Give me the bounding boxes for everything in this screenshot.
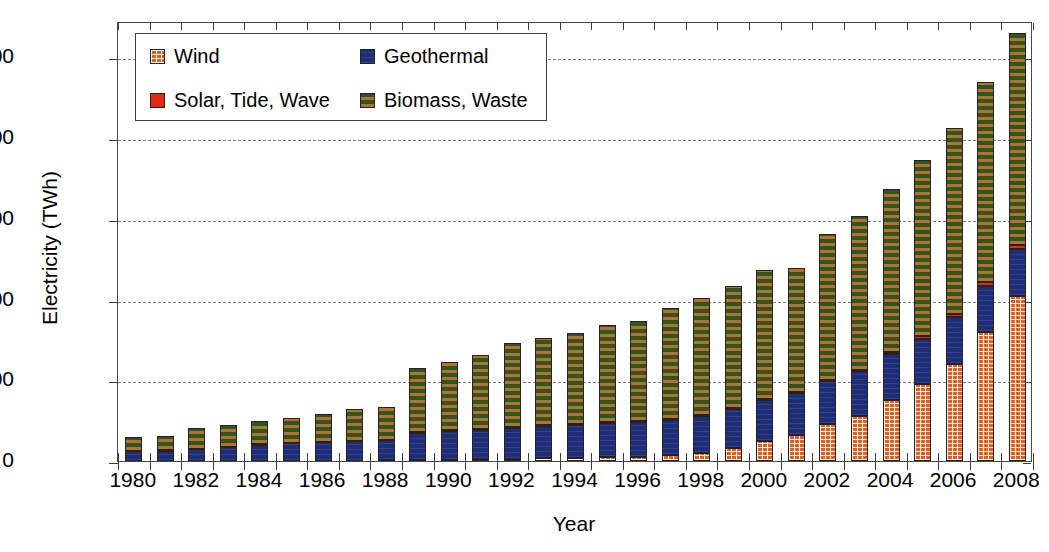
x-tick-mark [497, 23, 498, 30]
legend-label: Biomass, Waste [384, 89, 528, 112]
x-tick-mark [970, 453, 971, 461]
x-tick-mark [907, 453, 908, 461]
x-tick-mark [370, 453, 371, 461]
bar-segment-geothermal [819, 381, 836, 424]
y-axis-title: Electricity (TWh) [38, 48, 62, 448]
bar-1992[interactable] [504, 342, 521, 461]
bar-1982[interactable] [188, 427, 205, 461]
legend-item-solar-tide-wave[interactable]: Solar, Tide, Wave [150, 89, 360, 112]
bar-segment-wind [977, 332, 994, 461]
x-tick-mark [591, 23, 592, 30]
legend-swatch-icon [360, 49, 375, 64]
bar-1986[interactable] [315, 414, 332, 461]
bar-segment-solar-tide-wave [1009, 245, 1026, 250]
bar-segment-geothermal [883, 354, 900, 399]
bar-2006[interactable] [946, 128, 963, 461]
bar-1999[interactable] [725, 287, 742, 461]
bar-1997[interactable] [662, 308, 679, 461]
bar-2002[interactable] [819, 234, 836, 461]
bar-1993[interactable] [535, 338, 552, 461]
bar-segment-biomass-waste [346, 409, 363, 440]
bar-1985[interactable] [283, 418, 300, 461]
bar-segment-wind [725, 448, 742, 461]
bar-2004[interactable] [883, 189, 900, 461]
y-tick-mark [109, 463, 118, 464]
bar-1996[interactable] [630, 321, 647, 461]
y-tick-label: 400 [0, 126, 14, 147]
x-tick-mark [781, 453, 782, 461]
bar-segment-biomass-waste [567, 333, 584, 424]
x-tick-mark [213, 23, 214, 30]
bar-segment-solar-tide-wave [914, 336, 931, 339]
x-tick-mark [938, 23, 939, 30]
bar-1984[interactable] [251, 421, 268, 461]
bar-1980[interactable] [125, 437, 142, 461]
bar-segment-geothermal [535, 426, 552, 458]
bar-1995[interactable] [599, 325, 616, 461]
bar-2000[interactable] [756, 270, 773, 461]
bar-segment-geothermal [378, 440, 395, 460]
x-tick-mark [1001, 23, 1002, 30]
x-tick-mark [717, 453, 718, 461]
bar-segment-geothermal [914, 339, 931, 384]
bar-segment-biomass-waste [788, 268, 805, 392]
bar-1989[interactable] [409, 367, 426, 461]
x-tick-mark [181, 23, 182, 30]
x-tick-mark [1033, 23, 1034, 30]
x-tick-mark [402, 453, 403, 461]
bar-segment-geothermal [409, 433, 426, 460]
x-tick-mark [907, 23, 908, 30]
x-tick-mark [970, 23, 971, 30]
y-tick-label: 100 [0, 368, 14, 389]
bar-segment-biomass-waste [441, 362, 458, 431]
bar-segment-geothermal [662, 420, 679, 456]
bar-1988[interactable] [378, 407, 395, 461]
bar-2005[interactable] [914, 160, 931, 461]
legend-item-geothermal[interactable]: Geothermal [360, 45, 560, 68]
x-tick-mark [465, 23, 466, 30]
x-tick-mark [686, 453, 687, 461]
bar-2008[interactable] [1009, 33, 1026, 461]
y-tick-mark [109, 302, 118, 303]
bar-1998[interactable] [693, 298, 710, 461]
bar-1981[interactable] [157, 437, 174, 461]
bar-segment-geothermal [756, 400, 773, 440]
bar-1990[interactable] [441, 362, 458, 461]
x-tick-mark [654, 23, 655, 30]
x-tick-mark [370, 23, 371, 30]
bar-1983[interactable] [220, 425, 237, 461]
bar-2001[interactable] [788, 267, 805, 461]
bar-1991[interactable] [472, 354, 489, 461]
bar-segment-biomass-waste [693, 298, 710, 415]
bar-segment-geothermal [188, 449, 205, 461]
x-axis-title: Year [117, 512, 1031, 536]
bar-segment-geothermal [251, 445, 268, 461]
bar-segment-biomass-waste [599, 325, 616, 422]
legend-item-biomass-waste[interactable]: Biomass, Waste [360, 89, 560, 112]
y-tick-mark [109, 59, 118, 60]
bar-segment-biomass-waste [1009, 33, 1026, 245]
bar-segment-biomass-waste [977, 82, 994, 282]
bar-segment-geothermal [315, 442, 332, 461]
bar-segment-geothermal [946, 317, 963, 364]
bar-segment-biomass-waste [914, 160, 931, 336]
x-tick-mark [781, 23, 782, 30]
bar-segment-wind [535, 458, 552, 461]
legend-label: Geothermal [384, 45, 489, 68]
bar-segment-wind [693, 453, 710, 461]
x-tick-mark [528, 23, 529, 30]
bar-2007[interactable] [977, 82, 994, 461]
x-tick-mark [560, 23, 561, 30]
x-tick-mark [118, 453, 119, 461]
y-tick-label: 0 [0, 449, 14, 470]
bar-1987[interactable] [346, 409, 363, 461]
bar-segment-biomass-waste [283, 418, 300, 443]
bar-1994[interactable] [567, 333, 584, 461]
legend-item-wind[interactable]: Wind [150, 45, 360, 68]
x-tick-mark [150, 23, 151, 30]
y-tick-label: 200 [0, 288, 14, 309]
bar-segment-wind [662, 455, 679, 461]
x-tick-mark [402, 23, 403, 30]
bar-2003[interactable] [851, 216, 868, 461]
bar-segment-biomass-waste [315, 414, 332, 441]
